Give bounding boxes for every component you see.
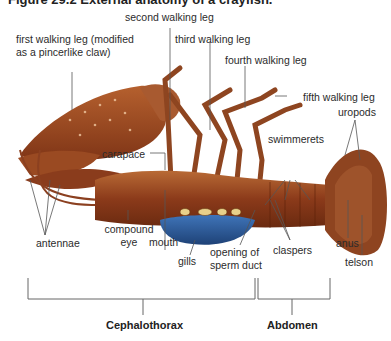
label-first-walking-leg-line1: first walking leg (modified [16,33,134,45]
label-fourth-walking-leg: fourth walking leg [225,54,307,66]
label-uropods: uropods [338,106,376,118]
label-opening-line2: sperm duct [210,259,262,271]
label-carapace: carapace [102,148,145,160]
label-gills: gills [178,255,196,267]
label-second-walking-leg: second walking leg [125,11,214,23]
label-swimmerets: swimmerets [268,133,324,145]
label-telson: telson [345,256,373,268]
label-first-walking-leg-line2: as a pincerlike claw) [16,46,111,58]
region-label-cephalothorax: Cephalothorax [106,319,183,331]
label-anus: anus [336,237,359,249]
label-mouth: mouth [149,236,178,248]
label-claspers: claspers [273,244,312,256]
label-antennae: antennae [36,237,80,249]
label-third-walking-leg: third walking leg [175,33,250,45]
label-compound-eye-line1: compound [104,223,154,235]
label-fifth-walking-leg: fifth walking leg [303,91,375,103]
region-brackets [28,278,330,315]
label-compound-eye-line2: eye [104,236,154,248]
region-label-abdomen: Abdomen [267,319,318,331]
label-opening-line1: opening of [210,246,259,258]
